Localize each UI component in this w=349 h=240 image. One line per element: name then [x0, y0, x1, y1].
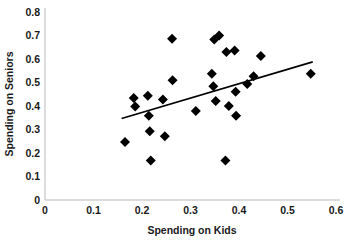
y-tick-label: 0.1 [25, 170, 40, 182]
y-tick-label: 0.4 [25, 100, 40, 112]
x-tick-label: 0.2 [135, 204, 150, 216]
data-point-marker [230, 46, 240, 56]
y-axis-title: Spending on Seniors [3, 51, 15, 156]
data-point-markers [120, 31, 316, 166]
data-point-marker [144, 111, 154, 121]
y-tick-label: 0.2 [25, 147, 40, 159]
y-tick-label: 0.3 [25, 123, 40, 135]
data-point-marker [120, 137, 130, 147]
data-point-marker [143, 91, 153, 101]
x-tick-label: 0.6 [329, 204, 344, 216]
data-point-marker [256, 51, 266, 61]
data-point-marker [207, 69, 217, 79]
x-axis-tick-labels: 00.10.20.30.40.50.6 [42, 204, 343, 216]
data-point-marker [224, 101, 234, 111]
data-point-marker [145, 126, 155, 136]
x-tick-label: 0.3 [183, 204, 198, 216]
y-axis-tick-labels: 00.10.20.30.40.50.60.70.8 [25, 6, 40, 206]
data-point-marker [158, 94, 168, 104]
x-tick-label: 0 [42, 204, 48, 216]
trend-line-segment [122, 62, 313, 119]
x-tick-label: 0.1 [86, 204, 101, 216]
y-tick-label: 0.7 [25, 29, 40, 41]
y-tick-label: 0.5 [25, 76, 40, 88]
data-point-marker [130, 101, 140, 111]
chart-canvas: 00.10.20.30.40.50.60.70.8 00.10.20.30.40… [0, 0, 349, 240]
x-axis-title: Spending on Kids [147, 224, 236, 236]
y-tick-label: 0.8 [25, 6, 40, 18]
trend-line [122, 62, 313, 119]
data-point-marker [306, 69, 316, 79]
data-point-marker [231, 87, 241, 97]
x-tick-label: 0.4 [232, 204, 247, 216]
data-point-marker [220, 156, 230, 166]
data-point-marker [146, 156, 156, 166]
data-point-marker [191, 106, 201, 116]
data-point-marker [231, 111, 241, 121]
data-point-marker [211, 96, 221, 106]
data-point-marker [160, 131, 170, 141]
data-point-marker [167, 34, 177, 44]
y-tick-label: 0 [34, 194, 40, 206]
scatter-chart: 00.10.20.30.40.50.60.70.8 00.10.20.30.40… [0, 0, 349, 240]
x-tick-label: 0.5 [280, 204, 295, 216]
data-point-marker [221, 47, 231, 57]
data-point-marker [129, 93, 139, 103]
axis-lines [45, 8, 340, 200]
data-point-marker [168, 75, 178, 85]
y-tick-label: 0.6 [25, 53, 40, 65]
